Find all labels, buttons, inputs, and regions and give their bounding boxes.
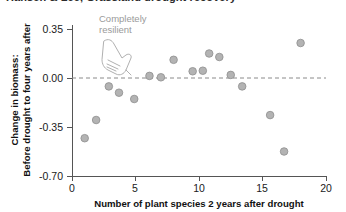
- data-point: [205, 50, 213, 58]
- data-point: [280, 148, 288, 156]
- data-point: [81, 134, 89, 142]
- data-point: [130, 95, 138, 103]
- y-tick-label-1: 0.00: [43, 72, 64, 84]
- x-tick-label-2: 10: [193, 182, 205, 194]
- completely-resilient-label-line2: resilient: [99, 24, 132, 35]
- data-point: [266, 111, 274, 119]
- data-point: [227, 71, 235, 79]
- data-points-layer: [81, 39, 305, 155]
- data-point: [170, 56, 178, 64]
- y-tick-marks: [67, 29, 72, 176]
- data-point: [189, 67, 197, 75]
- x-tick-label-4: 20: [320, 182, 332, 194]
- data-point: [297, 39, 305, 47]
- x-tick-marks: [72, 176, 326, 181]
- data-point: [157, 74, 165, 82]
- scatter-plot: 0.35 0.00 -0.35 -0.70 0 5 10 15 20 Numbe…: [0, 0, 346, 212]
- y-tick-label-0: 0.35: [43, 23, 64, 35]
- pointing-hand-icon: [102, 40, 131, 75]
- x-tick-label-1: 5: [132, 182, 138, 194]
- data-point: [146, 72, 154, 80]
- data-point: [105, 83, 113, 91]
- x-tick-label-0: 0: [69, 182, 75, 194]
- y-tick-label-3: -0.70: [39, 170, 63, 182]
- y-axis-title-line2: Before drought to four years after: [21, 23, 32, 177]
- data-point: [216, 53, 224, 61]
- x-tick-label-3: 15: [256, 182, 268, 194]
- figure-container: Hansen & Lee, Grassland drought recovery…: [0, 0, 346, 212]
- data-point: [92, 116, 100, 124]
- x-axis-title: Number of plant species 2 years after dr…: [94, 198, 304, 209]
- y-axis-title-line1: Change in biomass:: [9, 54, 20, 145]
- data-point: [238, 83, 246, 91]
- y-tick-label-2: -0.35: [39, 121, 63, 133]
- completely-resilient-label-line1: Completely: [99, 13, 147, 24]
- data-point: [115, 89, 123, 97]
- data-point: [199, 67, 207, 75]
